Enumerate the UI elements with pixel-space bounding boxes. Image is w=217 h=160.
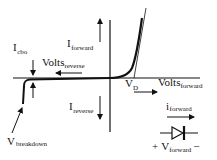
volts-reverse-label: Voltsreverse — [42, 56, 85, 70]
v-breakdown-arrow — [12, 108, 22, 133]
reverse-curve — [23, 78, 110, 104]
forward-curve — [110, 18, 142, 78]
i-forward-small-label: iforward — [166, 100, 192, 113]
diode-symbol-icon — [160, 126, 198, 140]
i-cbo-label: Icbo — [13, 41, 28, 56]
i-reverse-label: Ireverse — [69, 100, 93, 115]
v-forward-label: +Vforward− — [152, 140, 200, 154]
v-breakdown-label: Vbreakdown — [7, 135, 48, 148]
i-forward-label: Iforward — [67, 37, 94, 52]
diode-iv-diagram: Icbo Voltsreverse Iforward Ireverse VD V… — [0, 0, 217, 160]
knee-tangent-line — [134, 8, 146, 78]
v-d-label: VD — [125, 77, 138, 92]
